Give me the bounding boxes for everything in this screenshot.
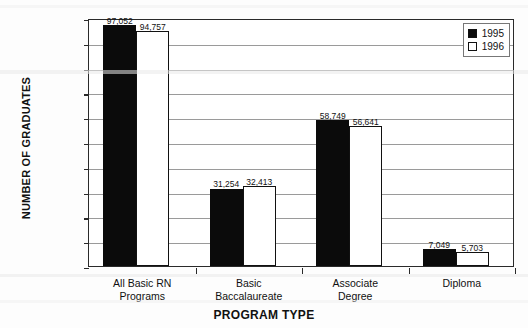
bar-1995-2 (316, 120, 349, 266)
x-tick-mark (302, 268, 303, 274)
y-tick-mark (84, 243, 89, 244)
bar-value-label: 31,254 (213, 179, 239, 189)
bar-value-label: 56,641 (353, 117, 379, 127)
x-tick-mark (409, 268, 410, 274)
legend-label: 1995 (482, 28, 504, 39)
x-category-label: Diploma (442, 277, 481, 290)
bar-value-label: 94,757 (140, 22, 166, 32)
x-cat-label-line: Baccalaureate (215, 290, 282, 303)
y-tick-mark (84, 70, 89, 71)
x-cat-label-line: Programs (113, 290, 171, 303)
x-cat-label-line: Basic (215, 277, 282, 290)
bar-1996-1 (243, 186, 276, 266)
legend-swatch-filled-square-icon (468, 29, 477, 38)
bar-1995-1 (210, 189, 243, 267)
y-tick-mark (84, 45, 89, 46)
x-cat-label-line: All Basic RN (113, 277, 171, 290)
scan-artifact-band (0, 5, 528, 8)
bar-value-label: 5,703 (462, 243, 483, 253)
y-tick-mark (84, 194, 89, 195)
x-category-label: BasicBaccalaureate (215, 277, 282, 303)
bar-1996-2 (349, 126, 382, 266)
x-cat-label-line: Associate (332, 277, 378, 290)
x-cat-label-line: Diploma (442, 277, 481, 290)
bar-1996-3 (456, 252, 489, 266)
y-tick-mark (84, 94, 89, 95)
bar-value-label: 7,049 (429, 240, 450, 250)
legend-item-1995: 1995 (468, 27, 504, 40)
x-tick-mark (196, 268, 197, 274)
plot-area: 010,00020,00030,00040,00050,00060,00070,… (88, 19, 514, 267)
y-tick-mark (84, 268, 89, 269)
legend-item-1996: 1996 (468, 40, 504, 53)
y-axis-title: NUMBER OF GRADUATES (20, 63, 32, 233)
y-tick-mark (84, 218, 89, 219)
bar-1995-3 (423, 249, 456, 266)
bar-value-label: 97,052 (107, 16, 133, 26)
y-tick-mark (84, 119, 89, 120)
bar-chart: NUMBER OF GRADUATES 010,00020,00030,0004… (0, 0, 528, 328)
y-tick-mark (84, 169, 89, 170)
y-tick-mark (84, 144, 89, 145)
x-category-label: AssociateDegree (332, 277, 378, 303)
x-cat-label-line: Degree (332, 290, 378, 303)
x-category-label: All Basic RNPrograms (113, 277, 171, 303)
bar-value-label: 58,749 (320, 111, 346, 121)
legend-label: 1996 (482, 41, 504, 52)
bar-1996-0 (136, 31, 169, 266)
x-axis-title: PROGRAM TYPE (0, 308, 528, 322)
x-tick-mark (515, 268, 516, 274)
bar-value-label: 32,413 (246, 177, 272, 187)
y-tick-mark (84, 20, 89, 21)
legend-swatch-hollow-square-icon (468, 42, 477, 51)
bar-1995-0 (103, 25, 136, 266)
legend: 1995 1996 (463, 23, 510, 57)
